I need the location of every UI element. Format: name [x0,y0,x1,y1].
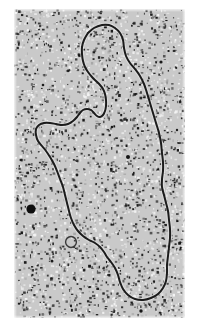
micrograph-canvas [14,9,185,318]
stain-particle [126,155,130,159]
stain-particle [139,309,142,312]
stain-particle [42,84,45,87]
stain-particle [111,126,114,129]
micrograph-image [14,9,185,318]
stain-particle [51,260,54,263]
stain-particle [76,174,79,177]
stain-particle [176,129,178,131]
stain-particle [26,204,35,213]
stain-particle [159,60,162,63]
micrograph-page [0,0,199,325]
